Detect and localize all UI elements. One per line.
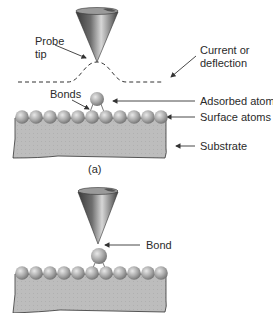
surface-atoms-b — [15, 266, 168, 280]
label-probe: Probe — [35, 35, 64, 47]
label-deflection: deflection — [200, 57, 247, 69]
substrate-block-b — [13, 274, 166, 313]
substrate-block — [13, 118, 166, 158]
transferred-atom — [91, 248, 107, 264]
label-substrate: Substrate — [200, 140, 247, 152]
label-surface-atoms: Surface atoms — [200, 111, 271, 123]
current-arrow — [171, 56, 196, 77]
label-adsorbed-atom: Adsorbed atom — [200, 95, 273, 107]
panel-a — [13, 8, 196, 159]
label-bond: Bond — [146, 239, 172, 251]
surface-atoms — [15, 110, 168, 124]
bonds-arrow — [72, 100, 89, 109]
current-deflection-curve — [18, 62, 164, 82]
panel-a-caption: (a) — [88, 163, 101, 175]
label-bonds: Bonds — [50, 88, 81, 100]
probe-tip-b-icon — [78, 188, 118, 245]
adsorbed-atom — [90, 92, 104, 106]
label-current: Current or — [200, 44, 250, 56]
label-tip: tip — [35, 48, 47, 60]
probe-tip-icon — [76, 8, 118, 63]
panel-b — [13, 188, 168, 313]
